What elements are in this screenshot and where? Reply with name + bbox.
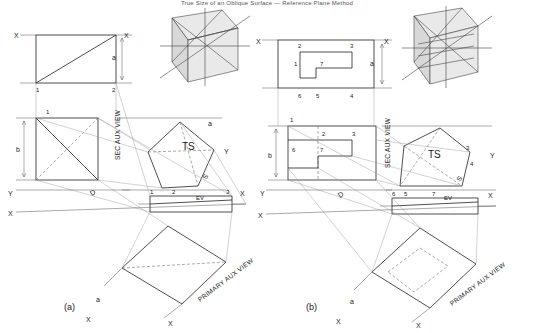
panel-b-num-6-front: 6 (298, 93, 302, 99)
panel-a-num-2-front: 2 (112, 87, 116, 93)
panel-b-label-x-mid-right: X (488, 192, 493, 199)
panel-b-num-2-front: 2 (298, 43, 302, 49)
panel-b-pictorial (402, 6, 492, 88)
drawing-canvas: X X a 1 2 1 b Y Y a SEC AUX VIEW TS S D … (0, 0, 534, 333)
panel-b: X X a 2 3 1 7 6 5 4 1 2 3 6 7 b Y Y SEC … (256, 6, 507, 329)
panel-a-caption: (a) (64, 302, 75, 312)
panel-a-construction-lines (36, 83, 246, 212)
panel-b-label-x-top-left: X (256, 38, 261, 45)
panel-a-label-y-left: Y (8, 190, 13, 197)
panel-a-label-x-top-right: X (124, 32, 129, 39)
panel-a-sec-aux-view-label: SEC AUX VIEW (114, 109, 121, 160)
panel-a-label-y-right: Y (224, 148, 229, 155)
panel-b-num-7-top: 7 (320, 147, 324, 153)
panel-b-num-3-aux: 3 (466, 145, 470, 151)
panel-a-label-x-top-left: X (14, 32, 19, 39)
figure-page: True Size of an Oblique Surface — Refere… (0, 0, 534, 333)
panel-a-num-1-front: 1 (36, 87, 40, 93)
panel-b-num-4-front: 4 (350, 93, 354, 99)
panel-b-label-x-bottom-2: X (416, 322, 421, 329)
panel-a-ev-view (138, 196, 246, 212)
panel-b-ev-view (380, 198, 496, 214)
panel-a-label-x-mid-right: X (240, 190, 245, 197)
panel-a-dim-a-top: a (112, 54, 116, 61)
panel-b-num-4-aux: 4 (470, 161, 474, 167)
panel-a-dim-b: b (16, 146, 20, 153)
panel-b-ev-label: EV (444, 195, 452, 201)
panel-a-sec-aux-view (36, 118, 226, 190)
panel-b-d-label: D (337, 190, 345, 199)
panel-a-dim-a-right: a (208, 120, 212, 127)
panel-a-dim-a-bottom: a (96, 296, 100, 303)
panel-b-num-5-ev: 5 (404, 191, 408, 197)
panel-b-label-x-mid-left: X (258, 212, 263, 219)
panel-b-dim-a-top: a (370, 60, 374, 67)
panel-b-num-5-front: 5 (316, 93, 320, 99)
panel-b-label-y-left: Y (260, 190, 265, 197)
panel-b-num-1-front: 1 (294, 61, 298, 67)
panel-a-d-label: D (89, 188, 97, 197)
panel-a-label-x-bottom-2: X (168, 320, 173, 327)
panel-a-num-1-top: 1 (46, 109, 50, 115)
panel-b-dim-a-bottom: a (350, 298, 354, 305)
panel-b-num-2-top: 2 (322, 131, 326, 137)
panel-a-s-label: S (201, 172, 210, 180)
panel-b-label-x-bottom: X (336, 318, 341, 325)
panel-a-ts-label: TS (182, 141, 195, 152)
panel-a-label-x-bottom: X (86, 316, 91, 323)
panel-a-label-x-mid-left: X (8, 210, 13, 217)
panel-b-ts-label: TS (428, 149, 441, 160)
panel-a-top-view (16, 118, 98, 180)
panel-a: X X a 1 2 1 b Y Y a SEC AUX VIEW TS S D … (8, 8, 255, 327)
panel-b-sec-aux-view-label: SEC AUX VIEW (384, 117, 391, 168)
panel-b-num-7-front: 7 (320, 61, 324, 67)
panel-b-label-y-right: Y (490, 152, 495, 159)
panel-b-num-3-top: 3 (352, 131, 356, 137)
panel-b-dim-b: b (268, 152, 272, 159)
panel-a-ev-label: EV (196, 195, 204, 201)
panel-b-num-3-front: 3 (350, 43, 354, 49)
panel-b-label-x-top-right: X (384, 38, 389, 45)
panel-b-caption: (b) (306, 302, 317, 312)
panel-b-num-6-top: 6 (292, 147, 296, 153)
panel-a-pictorial (160, 8, 250, 86)
panel-b-num-6-ev: 6 (392, 191, 396, 197)
panel-b-num-1-top: 1 (290, 117, 294, 123)
panel-b-num-7-ev: 7 (432, 191, 436, 197)
